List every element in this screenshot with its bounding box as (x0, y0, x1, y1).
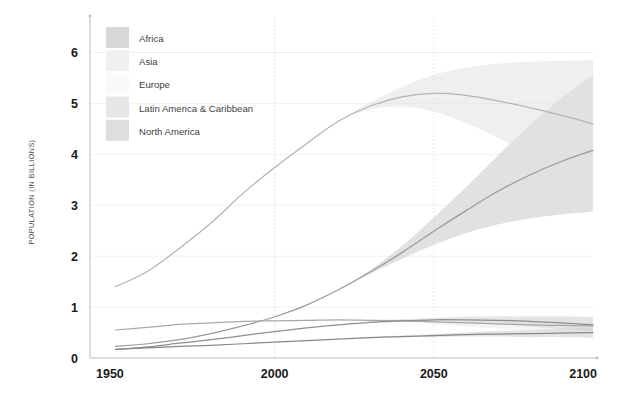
x-tick-label: 2000 (261, 367, 289, 381)
y-tick-label: 5 (71, 97, 78, 111)
chart-canvas: 01234561950200020502100 POPULATION (IN B… (0, 0, 617, 409)
legend-label: Africa (139, 33, 164, 44)
legend-swatch (106, 120, 129, 141)
legend-swatch (106, 97, 129, 118)
y-axis-cap (89, 15, 92, 18)
legend-label: Asia (139, 56, 158, 67)
y-tick-label: 1 (71, 301, 78, 315)
y-tick-label: 4 (71, 148, 78, 162)
legend-swatch (106, 50, 129, 71)
y-tick-label: 0 (71, 352, 78, 366)
legend-swatch (106, 27, 129, 48)
y-axis-title: POPULATION (IN BILLIONS) (27, 140, 36, 245)
y-tick-label: 6 (71, 46, 78, 60)
legend-label: Europe (139, 79, 170, 90)
x-axis-cap (596, 357, 599, 360)
y-axis-title-text: POPULATION (IN BILLIONS) (27, 140, 36, 245)
chart-legend: AfricaAsiaEuropeLatin America & Caribbea… (106, 27, 253, 141)
x-tick-label: 1950 (96, 367, 124, 381)
x-tick-label: 2050 (420, 367, 448, 381)
y-tick-label: 2 (71, 250, 78, 264)
x-tick-label: 2100 (569, 367, 597, 381)
legend-label: Latin America & Caribbean (139, 103, 253, 114)
legend-swatch (106, 73, 129, 94)
y-tick-label: 3 (71, 199, 78, 213)
population-projection-chart: 01234561950200020502100 POPULATION (IN B… (0, 0, 617, 409)
legend-label: North America (139, 126, 200, 137)
